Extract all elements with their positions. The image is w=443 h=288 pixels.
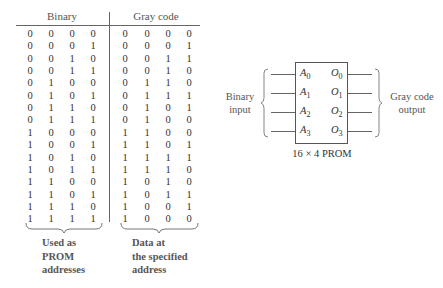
- gray-cell: 0: [141, 213, 153, 224]
- gray-cell: 1: [141, 90, 153, 101]
- binary-cell: 0: [24, 102, 36, 113]
- gray-cell: 0: [183, 213, 195, 224]
- binary-cell: 1: [66, 114, 78, 125]
- binary-cell: 0: [87, 53, 99, 64]
- gray-output-label: Gray code output: [383, 91, 441, 116]
- gray-cell: 0: [162, 102, 174, 113]
- gray-header: Gray code: [110, 10, 202, 22]
- pin-a0: A0: [300, 67, 310, 81]
- gray-cell: 1: [141, 114, 153, 125]
- pin-o3: O3: [331, 124, 343, 138]
- binary-cell: 0: [45, 28, 57, 39]
- gray-cell: 0: [141, 201, 153, 212]
- gray-cell: 1: [119, 201, 131, 212]
- binary-cell: 0: [87, 102, 99, 113]
- binary-input-label: Binary input: [220, 91, 260, 116]
- binary-cell: 1: [45, 114, 57, 125]
- binary-cell: 0: [24, 90, 36, 101]
- binary-cell: 0: [24, 28, 36, 39]
- binary-cell: 0: [45, 139, 57, 150]
- binary-cell: 1: [87, 189, 99, 200]
- gray-cell: 1: [183, 40, 195, 51]
- gray-cell: 0: [119, 90, 131, 101]
- gray-cell: 0: [183, 114, 195, 125]
- gray-cell: 0: [162, 40, 174, 51]
- binary-cell: 1: [66, 53, 78, 64]
- gray-cell: 0: [183, 164, 195, 175]
- binary-cell: 1: [45, 189, 57, 200]
- pin-a1: A1: [300, 86, 310, 100]
- binary-cell: 0: [66, 189, 78, 200]
- gray-cell: 0: [119, 102, 131, 113]
- binary-brace: [26, 223, 102, 233]
- binary-cell: 1: [66, 65, 78, 76]
- gray-cell: 1: [183, 189, 195, 200]
- binary-cell: 0: [45, 152, 57, 163]
- gray-cell: 0: [119, 40, 131, 51]
- gray-cell: 1: [183, 53, 195, 64]
- gray-cell: 0: [141, 53, 153, 64]
- gray-cell: 1: [119, 139, 131, 150]
- binary-cell: 1: [24, 201, 36, 212]
- gray-cell: 1: [162, 65, 174, 76]
- binary-header: Binary: [16, 10, 108, 22]
- gray-cell: 1: [119, 164, 131, 175]
- binary-cell: 0: [87, 28, 99, 39]
- pin-a3: A3: [300, 124, 310, 138]
- binary-cell: 0: [87, 201, 99, 212]
- gray-cell: 1: [119, 213, 131, 224]
- gray-cell: 0: [119, 77, 131, 88]
- pin-a2: A2: [300, 105, 310, 119]
- gray-cell: 1: [183, 152, 195, 163]
- gray-cell: 0: [119, 28, 131, 39]
- gray-cell: 1: [183, 139, 195, 150]
- gray-cell: 1: [183, 90, 195, 101]
- gray-cell: 1: [119, 127, 131, 138]
- binary-cell: 0: [66, 139, 78, 150]
- binary-cell: 1: [87, 213, 99, 224]
- gray-cell: 1: [141, 152, 153, 163]
- binary-cell: 1: [66, 164, 78, 175]
- binary-cell: 0: [66, 90, 78, 101]
- binary-cell: 0: [24, 40, 36, 51]
- binary-cell: 1: [87, 164, 99, 175]
- gray-cell: 0: [141, 40, 153, 51]
- binary-cell: 0: [66, 28, 78, 39]
- binary-cell: 1: [87, 40, 99, 51]
- gray-cell: 1: [162, 77, 174, 88]
- binary-cell: 0: [45, 65, 57, 76]
- gray-cell: 1: [162, 164, 174, 175]
- binary-cell: 0: [87, 77, 99, 88]
- gray-cell: 0: [119, 53, 131, 64]
- binary-cell: 1: [24, 189, 36, 200]
- gray-cell: 1: [183, 102, 195, 113]
- gray-cell: 0: [183, 28, 195, 39]
- gray-cell: 0: [162, 127, 174, 138]
- binary-cell: 1: [66, 102, 78, 113]
- gray-caption: Data at the specified address: [132, 236, 188, 277]
- gray-brace: [121, 223, 198, 233]
- binary-cell: 1: [45, 102, 57, 113]
- gray-cell: 1: [141, 77, 153, 88]
- binary-cell: 0: [66, 176, 78, 187]
- binary-cell: 0: [45, 164, 57, 175]
- binary-caption: Used as PROM addresses: [42, 236, 85, 277]
- binary-cell: 1: [87, 139, 99, 150]
- gray-cell: 1: [162, 189, 174, 200]
- input-brace: [261, 69, 268, 137]
- gray-cell: 1: [162, 176, 174, 187]
- binary-cell: 1: [45, 90, 57, 101]
- gray-cell: 0: [162, 139, 174, 150]
- pin-o2: O2: [331, 105, 343, 119]
- gray-cell: 1: [183, 201, 195, 212]
- binary-cell: 1: [87, 90, 99, 101]
- binary-cell: 0: [45, 127, 57, 138]
- gray-cell: 0: [119, 65, 131, 76]
- binary-cell: 0: [45, 53, 57, 64]
- gray-cell: 0: [141, 176, 153, 187]
- gray-cell: 0: [183, 77, 195, 88]
- gray-cell: 1: [141, 164, 153, 175]
- gray-cell: 0: [183, 127, 195, 138]
- binary-cell: 1: [24, 164, 36, 175]
- gray-cell: 1: [162, 90, 174, 101]
